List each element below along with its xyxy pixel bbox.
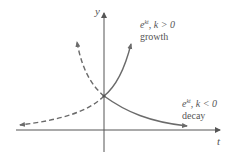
decay-formula: ekt, k < 0 [182, 98, 217, 109]
growth-caption: growth [140, 31, 168, 42]
growth-formula: ekt, k > 0 [140, 19, 175, 30]
growth-decay-diagram: y t ekt, k > 0 growth ekt, k < 0 decay [0, 0, 231, 163]
decay-curve [104, 96, 187, 126]
growth-curve [104, 44, 131, 96]
growth-curve-dashed [20, 96, 104, 125]
y-intercept-point [102, 94, 105, 97]
y-axis-label: y [94, 5, 100, 17]
t-axis-label: t [217, 135, 221, 147]
decay-curve-dashed [77, 42, 104, 96]
decay-caption: decay [182, 110, 205, 121]
